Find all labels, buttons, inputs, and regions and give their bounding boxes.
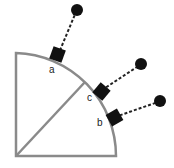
block-b [106, 109, 124, 127]
string-b [115, 102, 158, 117]
string-c [102, 65, 140, 90]
string-a [58, 12, 76, 55]
diagram-canvas: a c b [0, 0, 174, 168]
label-a: a [49, 64, 55, 75]
bob-c [135, 58, 147, 70]
pendulum-b [106, 95, 166, 126]
label-b: b [97, 117, 103, 128]
radius-line [16, 82, 85, 156]
bob-a [71, 4, 83, 16]
bob-b [154, 95, 166, 107]
label-c: c [87, 92, 92, 103]
pendulum-c [92, 58, 147, 101]
pendulum-a [49, 4, 83, 63]
